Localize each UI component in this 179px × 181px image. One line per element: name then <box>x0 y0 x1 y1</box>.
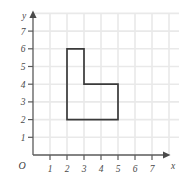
x-tick-label-4: 4 <box>99 164 104 174</box>
y-axis-label: y <box>21 11 27 21</box>
y-tick-label-6: 6 <box>21 44 26 54</box>
x-tick-label-2: 2 <box>65 164 70 174</box>
y-tick-label-2: 2 <box>21 115 26 125</box>
y-tick-label-1: 1 <box>21 133 26 143</box>
coordinate-plane-figure: 1 2 3 4 5 6 7 1 2 3 4 5 6 7 O x y <box>0 0 179 181</box>
origin-label: O <box>18 160 25 171</box>
x-axis-label: x <box>170 161 176 171</box>
y-tick-label-3: 3 <box>20 97 26 107</box>
x-tick-label-5: 5 <box>116 164 121 174</box>
y-tick-label-4: 4 <box>21 80 26 90</box>
y-tick-label-5: 5 <box>21 62 26 72</box>
plot-canvas: 1 2 3 4 5 6 7 1 2 3 4 5 6 7 O x y <box>0 0 179 181</box>
x-tick-label-6: 6 <box>133 164 138 174</box>
x-tick-label-3: 3 <box>81 164 87 174</box>
x-tick-label-1: 1 <box>48 164 53 174</box>
